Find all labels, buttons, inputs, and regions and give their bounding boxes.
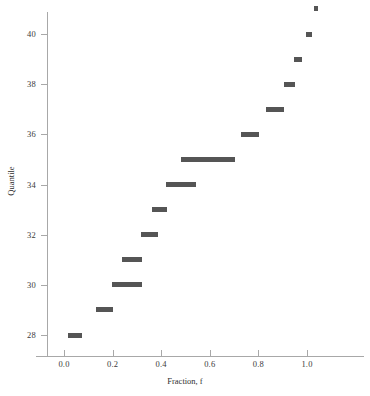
data-marker — [306, 32, 312, 37]
data-marker — [314, 6, 318, 11]
data-marker — [294, 57, 302, 62]
data-marker-group — [0, 0, 370, 396]
quantile-vs-fraction-chart: 28303234363840 0.00.20.40.60.81.0 Fracti… — [0, 0, 370, 396]
data-marker — [284, 82, 295, 87]
data-marker — [166, 182, 196, 187]
data-marker — [266, 107, 284, 112]
data-marker — [181, 157, 235, 162]
y-axis-label: Quantile — [6, 146, 16, 216]
x-axis-label: Fraction, f — [0, 376, 370, 386]
data-marker — [241, 132, 259, 137]
data-marker — [68, 333, 82, 338]
data-marker — [96, 307, 113, 312]
data-marker — [122, 257, 142, 262]
data-marker — [112, 282, 142, 287]
data-marker — [141, 232, 158, 237]
data-marker — [152, 207, 167, 212]
